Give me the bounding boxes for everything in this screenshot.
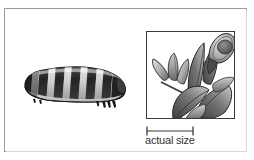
plant-box xyxy=(146,31,235,119)
caterpillar-svg xyxy=(19,57,137,109)
caterpillar-illustration xyxy=(19,57,137,109)
outer-frame: actual size xyxy=(4,8,247,152)
caterpillar-segments xyxy=(20,65,131,105)
figure-root: actual size xyxy=(0,0,254,160)
scale-label: actual size xyxy=(145,134,195,147)
plant-illustration xyxy=(147,32,234,118)
bud-core xyxy=(218,40,233,54)
plant-svg xyxy=(147,32,235,119)
scale-bar-group: actual size xyxy=(146,123,238,153)
caterpillar-body xyxy=(20,65,131,108)
